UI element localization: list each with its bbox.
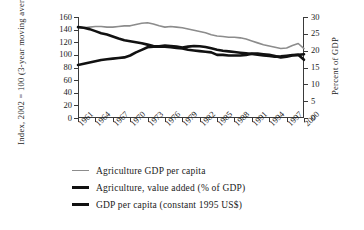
- y-axis-right-title-text: Percent of GDP: [330, 37, 340, 95]
- y-tick-label-right: 25: [311, 29, 320, 38]
- y-tick-right: [304, 101, 308, 102]
- y-tick-label-left: 140: [59, 25, 72, 34]
- series-line-2: [78, 47, 304, 65]
- legend-item-agriculture-gdp-per-capita: Agriculture GDP per capita: [72, 162, 245, 179]
- legend-item-gdp-per-capita: GDP per capita (constant 1995 US$): [72, 196, 245, 213]
- legend-swatch-gdp-per-capita: [72, 203, 89, 206]
- y-tick-label-left: 100: [59, 50, 72, 59]
- chart-figure: Index, 2002 = 100 (3-year moving average…: [0, 0, 364, 230]
- y-tick-right: [304, 84, 308, 85]
- y-tick-label-right: 5: [311, 97, 315, 106]
- legend-label-gdp-per-capita: GDP per capita (constant 1995 US$): [96, 200, 242, 210]
- y-tick-label-left: 60: [64, 76, 73, 85]
- series-lines: [78, 17, 304, 118]
- y-tick-label-left: 0: [68, 114, 72, 123]
- y-tick-right: [304, 34, 308, 35]
- y-tick-label-right: 30: [311, 13, 320, 22]
- y-tick-label-left: 40: [64, 88, 73, 97]
- legend-label-agriculture-value-added: Agriculture, value added (% of GDP): [96, 183, 245, 193]
- y-tick-right: [304, 68, 308, 69]
- y-tick-label-left: 80: [64, 63, 73, 72]
- legend-swatch-agriculture-gdp-per-capita: [72, 170, 89, 172]
- y-tick-label-right: 20: [311, 46, 320, 55]
- chart-legend: Agriculture GDP per capita Agriculture, …: [72, 162, 245, 213]
- y-tick-label-left: 20: [64, 101, 73, 110]
- y-axis-right-title: Percent of GDP: [330, 14, 360, 118]
- x-tick-label: 2000: [302, 109, 321, 128]
- y-tick-right: [304, 17, 308, 18]
- plot-area: 020406080100120140160 051015202530 19611…: [78, 17, 304, 118]
- legend-item-agriculture-value-added: Agriculture, value added (% of GDP): [72, 179, 245, 196]
- y-tick-label-left: 120: [59, 38, 72, 47]
- y-tick-label-right: 10: [311, 80, 320, 89]
- y-tick-label-right: 15: [311, 63, 320, 72]
- y-axis-left-title-text: Index, 2002 = 100 (3-year moving average…: [16, 0, 27, 144]
- y-tick-label-left: 160: [59, 13, 72, 22]
- y-tick-right: [304, 51, 308, 52]
- y-axis-left-title: Index, 2002 = 100 (3-year moving average…: [2, 8, 42, 120]
- legend-swatch-agriculture-value-added: [72, 186, 89, 189]
- legend-label-agriculture-gdp-per-capita: Agriculture GDP per capita: [96, 166, 206, 176]
